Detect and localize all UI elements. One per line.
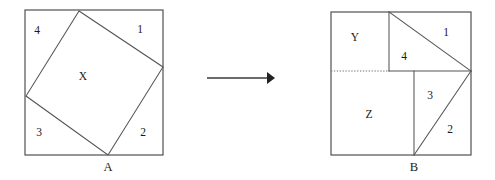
transformation-arrow-group xyxy=(207,72,275,84)
right-region-label-3: 3 xyxy=(427,89,433,101)
right-region-label-4: 4 xyxy=(401,50,407,62)
right-region-label-z: Z xyxy=(365,108,372,120)
left-region-label-x: X xyxy=(79,70,88,82)
right-diagonal-lower xyxy=(414,71,471,155)
figure-root: 4 1 X 3 2 A Y 4 1 Z 3 2 B xyxy=(0,0,495,180)
arrow-head-icon xyxy=(267,72,275,84)
point-label-a: A xyxy=(103,160,112,174)
left-region-label-3: 3 xyxy=(36,126,42,138)
left-region-label-1: 1 xyxy=(137,23,143,35)
right-region-label-2: 2 xyxy=(447,123,453,135)
right-region-label-1: 1 xyxy=(443,26,449,38)
right-diagonal-upper xyxy=(389,12,471,71)
right-figure-group: Y 4 1 Z 3 2 B xyxy=(331,12,471,174)
geometry-diagram: 4 1 X 3 2 A Y 4 1 Z 3 2 B xyxy=(0,0,495,180)
left-region-label-4: 4 xyxy=(34,24,40,36)
right-region-label-y: Y xyxy=(351,31,360,43)
left-figure-group: 4 1 X 3 2 A xyxy=(25,10,163,174)
left-region-label-2: 2 xyxy=(140,126,146,138)
point-label-b: B xyxy=(410,160,418,174)
